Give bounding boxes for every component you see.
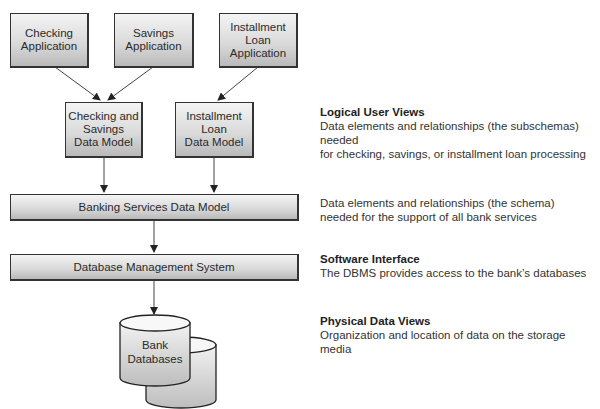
- description-line: Data elements and relationships (the sub…: [320, 119, 600, 147]
- checking-application-label: Checking Application: [21, 27, 77, 53]
- dbms-label: Database Management System: [73, 261, 234, 274]
- dbms-box: Database Management System: [10, 254, 299, 281]
- savings-application-box: Savings Application: [114, 13, 194, 68]
- software-interface-title: Software Interface: [320, 252, 586, 266]
- installment-loan-data-model-label: Installment Loan Data Model: [185, 110, 244, 149]
- installment-loan-application-label: Installment Loan Application: [230, 21, 286, 60]
- physical-data-views-title: Physical Data Views: [320, 314, 600, 328]
- banking-services-data-model-box: Banking Services Data Model: [10, 194, 299, 221]
- arrow-checking-to-cs-model: [55, 67, 100, 100]
- logical-user-views-description: Logical User Views Data elements and rel…: [320, 105, 600, 161]
- description-line: needed for the support of all bank servi…: [320, 210, 555, 224]
- checking-application-box: Checking Application: [10, 13, 89, 68]
- arrow-savings-to-cs-model: [108, 67, 153, 100]
- logical-user-views-title: Logical User Views: [320, 105, 600, 119]
- checking-savings-data-model-box: Checking and Savings Data Model: [65, 102, 143, 158]
- checking-savings-data-model-label: Checking and Savings Data Model: [68, 110, 138, 149]
- bank-databases-label: Bank Databases: [120, 338, 190, 366]
- arrow-loan-to-loan-model: [218, 67, 258, 100]
- banking-services-data-model-label: Banking Services Data Model: [79, 201, 230, 214]
- schema-description: Data elements and relationships (the sch…: [320, 196, 555, 224]
- description-line: Data elements and relationships (the sch…: [320, 196, 555, 210]
- description-line: The DBMS provides access to the bank’s d…: [320, 266, 586, 280]
- software-interface-description: Software Interface The DBMS provides acc…: [320, 252, 586, 280]
- installment-loan-application-box: Installment Loan Application: [219, 13, 298, 68]
- description-line: Organization and location of data on the…: [320, 328, 600, 356]
- installment-loan-data-model-box: Installment Loan Data Model: [175, 102, 254, 158]
- savings-application-label: Savings Application: [125, 27, 181, 53]
- description-line: for checking, savings, or installment lo…: [320, 147, 600, 161]
- physical-data-views-description: Physical Data Views Organization and loc…: [320, 314, 600, 356]
